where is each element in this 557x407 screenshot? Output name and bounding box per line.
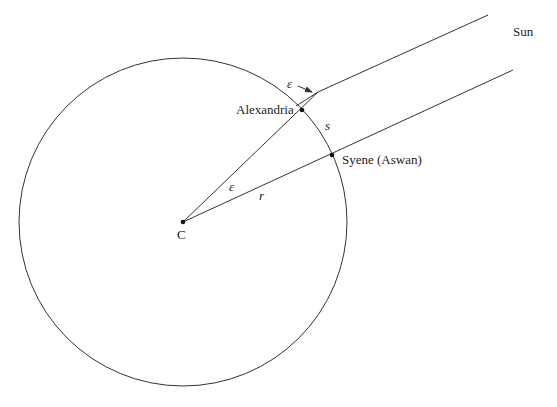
radius-label: r bbox=[259, 188, 265, 203]
center-point bbox=[181, 220, 186, 225]
arc-length-label: s bbox=[325, 118, 330, 133]
eratosthenes-diagram: Sun Alexandria Syene (Aswan) C ε ε s r bbox=[0, 0, 557, 407]
angle-arrow bbox=[298, 86, 312, 92]
sun-label: Sun bbox=[513, 24, 534, 39]
syene-label: Syene (Aswan) bbox=[342, 152, 422, 167]
sun-ray-syene bbox=[183, 70, 513, 222]
alexandria-point bbox=[300, 108, 305, 113]
shadow-segment bbox=[296, 92, 318, 106]
syene-point bbox=[330, 153, 335, 158]
epsilon-center-label: ε bbox=[229, 179, 235, 194]
sun-ray-alexandria bbox=[318, 15, 488, 92]
center-label: C bbox=[177, 227, 186, 242]
alexandria-label: Alexandria bbox=[236, 102, 294, 117]
epsilon-top-label: ε bbox=[287, 76, 293, 91]
